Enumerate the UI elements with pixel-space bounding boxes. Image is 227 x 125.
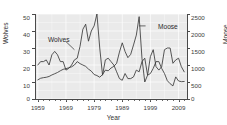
y-left-tick-label: 50 (10, 14, 30, 21)
annotation-moose: Moose (158, 23, 178, 30)
annotation-wolves: Wolves (48, 36, 70, 43)
x-tick-label: 1959 (25, 104, 51, 111)
y-right-tick-label: 1500 (191, 48, 215, 55)
y-left-tick-label: 0 (10, 95, 30, 102)
y-right-tick-label: 500 (191, 82, 215, 89)
y-left-tick-label: 10 (10, 82, 30, 89)
x-tick-label: 2009 (166, 104, 192, 111)
y-axis-right-title: Moose (222, 24, 227, 44)
y-axis-left-title: Wolves (2, 23, 9, 45)
chart-figure: Wolves Moose 50 40 30 20 10 0 2500 2000 … (0, 0, 227, 125)
y-right-tick-label: 2500 (191, 14, 215, 21)
y-left-tick-label: 30 (10, 48, 30, 55)
x-axis-line (35, 99, 187, 100)
y-left-tick-mark-line (35, 14, 36, 99)
x-tick-label: 1999 (137, 104, 163, 111)
y-right-tick-label: 2000 (191, 31, 215, 38)
x-tick-label: 1979 (81, 104, 107, 111)
y-left-tick-label: 40 (10, 31, 30, 38)
x-tick-label: 1989 (109, 104, 135, 111)
y-right-tick-label: 1000 (191, 65, 215, 72)
x-axis-title: Year (0, 114, 227, 121)
y-left-tick-label: 20 (10, 65, 30, 72)
y-right-tick-mark-line (187, 14, 188, 99)
y-right-tick-label: 0 (191, 95, 215, 102)
x-tick-label: 1969 (53, 104, 79, 111)
